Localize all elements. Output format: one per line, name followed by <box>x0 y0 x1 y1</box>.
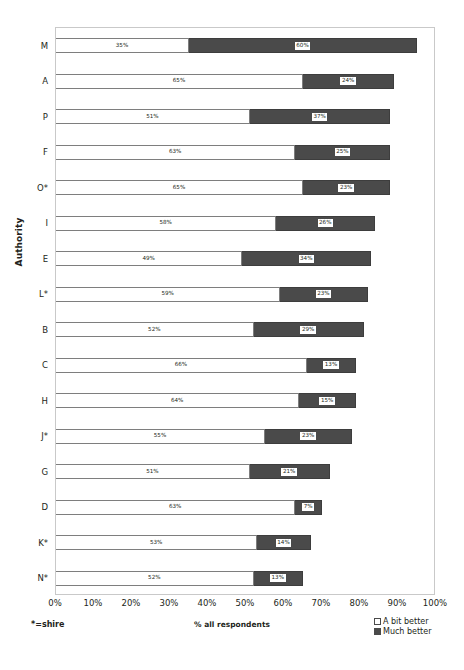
bar-segment-much-better[interactable]: 29% <box>254 322 364 337</box>
bar-value-label: 53% <box>150 540 162 546</box>
bar-segment-a-bit-better[interactable]: 52% <box>56 571 254 586</box>
bar-segment-a-bit-better[interactable]: 65% <box>56 180 303 195</box>
bar-segment-much-better[interactable]: 7% <box>295 500 322 515</box>
bar-row: D63%7% <box>56 500 434 515</box>
x-axis-tick-label: 80% <box>350 598 369 608</box>
bar-segment-much-better[interactable]: 14% <box>257 535 310 550</box>
bar-value-label: 24% <box>340 77 355 85</box>
bar-value-label: 63% <box>169 149 181 155</box>
bar-value-label: 66% <box>175 362 187 368</box>
plot-area: M35%60%A65%24%P51%37%F63%25%O*65%23%I58%… <box>55 27 435 595</box>
x-axis-tick-label: 30% <box>160 598 179 608</box>
bar-segment-much-better[interactable]: 21% <box>250 464 330 479</box>
category-label: H <box>8 396 48 406</box>
bar-segment-much-better[interactable]: 23% <box>303 180 390 195</box>
bar-value-label: 60% <box>295 42 310 50</box>
bar-segment-much-better[interactable]: 24% <box>303 74 394 89</box>
x-axis-ticks: 0%10%20%30%40%50%60%70%80%90%100% <box>55 598 435 612</box>
bar-segment-much-better[interactable]: 26% <box>276 216 375 231</box>
bar-value-label: 26% <box>318 219 333 227</box>
bar-segment-a-bit-better[interactable]: 65% <box>56 74 303 89</box>
x-axis-tick-label: 50% <box>236 598 255 608</box>
bar-value-label: 23% <box>316 290 331 298</box>
bar-segment-a-bit-better[interactable]: 55% <box>56 429 265 444</box>
x-axis-tick-label: 60% <box>274 598 293 608</box>
bar-segment-a-bit-better[interactable]: 59% <box>56 287 280 302</box>
bar-row: P51%37% <box>56 109 434 124</box>
category-label: E <box>8 254 48 264</box>
bar-value-label: 21% <box>281 468 296 476</box>
category-label: O* <box>8 183 48 193</box>
bar-segment-a-bit-better[interactable]: 64% <box>56 393 299 408</box>
bar-row: G51%21% <box>56 464 434 479</box>
bar-row: O*65%23% <box>56 180 434 195</box>
x-axis-tick-label: 40% <box>198 598 217 608</box>
x-axis-tick-label: 20% <box>122 598 141 608</box>
bar-value-label: 23% <box>300 432 315 440</box>
legend-label: A bit better <box>383 617 428 626</box>
bar-segment-much-better[interactable]: 34% <box>242 251 371 266</box>
bar-segment-a-bit-better[interactable]: 35% <box>56 38 189 53</box>
category-label: N* <box>8 573 48 583</box>
bar-value-label: 25% <box>335 148 350 156</box>
category-label: I <box>8 218 48 228</box>
category-label: P <box>8 112 48 122</box>
bar-row: N*52%13% <box>56 571 434 586</box>
bar-segment-much-better[interactable]: 25% <box>295 145 390 160</box>
bar-row: J*55%23% <box>56 429 434 444</box>
category-label: D <box>8 502 48 512</box>
bar-value-label: 51% <box>146 469 158 475</box>
legend-swatch-icon <box>374 618 381 625</box>
bar-segment-much-better[interactable]: 23% <box>265 429 352 444</box>
bar-segment-much-better[interactable]: 13% <box>307 358 356 373</box>
bar-segment-a-bit-better[interactable]: 58% <box>56 216 276 231</box>
bar-segment-much-better[interactable]: 15% <box>299 393 356 408</box>
bar-segment-much-better[interactable]: 13% <box>254 571 303 586</box>
x-axis-tick-label: 70% <box>312 598 331 608</box>
category-label: G <box>8 467 48 477</box>
category-label: K* <box>8 538 48 548</box>
bar-value-label: 64% <box>171 398 183 404</box>
x-axis-tick-label: 100% <box>423 598 447 608</box>
category-label: M <box>8 41 48 51</box>
bar-value-label: 55% <box>154 433 166 439</box>
bar-value-label: 52% <box>148 327 160 333</box>
category-label: F <box>8 147 48 157</box>
bar-value-label: 52% <box>148 575 160 581</box>
category-label: J* <box>8 431 48 441</box>
bar-row: K*53%14% <box>56 535 434 550</box>
bar-row: F63%25% <box>56 145 434 160</box>
category-label: C <box>8 360 48 370</box>
bar-segment-a-bit-better[interactable]: 66% <box>56 358 307 373</box>
bar-value-label: 13% <box>323 361 338 369</box>
legend-item[interactable]: Much better <box>374 627 431 636</box>
bar-segment-much-better[interactable]: 23% <box>280 287 367 302</box>
bar-segment-a-bit-better[interactable]: 52% <box>56 322 254 337</box>
bar-segment-a-bit-better[interactable]: 51% <box>56 464 250 479</box>
x-axis-tick-label: 10% <box>84 598 103 608</box>
bar-segment-a-bit-better[interactable]: 51% <box>56 109 250 124</box>
bar-value-label: 65% <box>173 78 185 84</box>
bar-value-label: 29% <box>300 326 315 334</box>
bar-segment-a-bit-better[interactable]: 53% <box>56 535 257 550</box>
legend-swatch-icon <box>374 628 381 635</box>
bar-segment-much-better[interactable]: 37% <box>250 109 391 124</box>
bar-segment-a-bit-better[interactable]: 63% <box>56 145 295 160</box>
bar-value-label: 7% <box>302 503 314 511</box>
legend-item[interactable]: A bit better <box>374 617 431 626</box>
bar-row: L*59%23% <box>56 287 434 302</box>
bar-segment-a-bit-better[interactable]: 49% <box>56 251 242 266</box>
x-axis-tick-label: 0% <box>48 598 62 608</box>
category-label: A <box>8 76 48 86</box>
bar-row: M35%60% <box>56 38 434 53</box>
bar-value-label: 49% <box>142 256 154 262</box>
bar-row: C66%13% <box>56 358 434 373</box>
bar-segment-much-better[interactable]: 60% <box>189 38 417 53</box>
bar-segment-a-bit-better[interactable]: 63% <box>56 500 295 515</box>
bar-value-label: 15% <box>319 397 334 405</box>
x-axis-tick-label: 90% <box>388 598 407 608</box>
bar-value-label: 59% <box>161 291 173 297</box>
bar-row: A65%24% <box>56 74 434 89</box>
bar-value-label: 51% <box>146 114 158 120</box>
stacked-bar-chart: Authority M35%60%A65%24%P51%37%F63%25%O*… <box>0 0 464 670</box>
